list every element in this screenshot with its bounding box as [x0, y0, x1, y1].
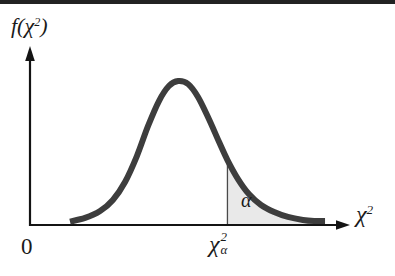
y-axis-label: f(χ2)	[11, 15, 48, 37]
x-axis-arrowhead	[336, 220, 350, 230]
density-curve	[70, 81, 325, 222]
critical-value-label: χ2α	[209, 231, 227, 257]
x-axis-label: χ2	[356, 202, 373, 226]
alpha-area-label: α	[241, 190, 252, 210]
plot-canvas	[0, 0, 395, 276]
chi-symbol: χ	[356, 201, 367, 227]
chi-symbol: χ	[209, 232, 220, 256]
squared-exponent: 2	[367, 202, 374, 217]
chi-square-distribution-figure: f(χ2) χ2 χ2α α 0	[0, 0, 395, 276]
y-axis-label-suffix: )	[40, 13, 47, 38]
y-axis-arrowhead	[25, 46, 35, 61]
y-axis-label-prefix: f(	[11, 13, 24, 38]
alpha-subscript: α	[221, 243, 228, 256]
origin-label: 0	[21, 235, 33, 258]
critical-value-scripts: 2α	[221, 230, 228, 256]
chi-symbol: χ	[24, 13, 34, 38]
